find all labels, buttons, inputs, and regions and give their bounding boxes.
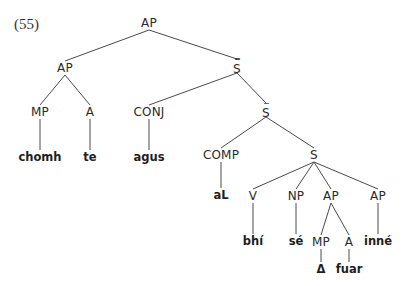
tree-edge [266, 117, 314, 148]
leaf-se: sé [289, 236, 304, 248]
tree-edge [65, 30, 149, 61]
node-s: S [310, 149, 318, 161]
node-v: V [249, 190, 257, 202]
node-comp: COMP [203, 149, 239, 161]
tree-edge [221, 117, 266, 148]
leaf-fuar: fuar [336, 264, 363, 276]
node-ap-left: AP [57, 62, 73, 74]
node-np: NP [288, 190, 305, 202]
node-mp-1: MP [31, 106, 49, 118]
leaf-delta: Δ [317, 264, 326, 276]
node-s-double-bar-label: S [233, 63, 241, 75]
tree-edge [314, 162, 378, 189]
tree-edge [149, 73, 237, 105]
leaf-te: te [83, 152, 96, 164]
node-mp-2: MP [312, 236, 330, 248]
node-conj: CONJ [133, 106, 164, 118]
tree-edge [331, 203, 349, 235]
node-ap-right: AP [370, 190, 386, 202]
node-s-bar: ─ S [262, 101, 270, 119]
leaf-aL: aL [213, 190, 228, 202]
tree-edge [65, 75, 90, 105]
tree-edge [237, 73, 266, 103]
leaf-bhi: bhí [243, 236, 263, 248]
leaf-agus: agus [133, 152, 164, 164]
node-s-bar-label: S [262, 107, 270, 119]
tree-edge [40, 75, 65, 105]
node-a-1: A [86, 106, 94, 118]
tree-edge [321, 203, 331, 235]
node-root-ap: AP [141, 17, 157, 29]
node-s-double-bar: ═ S [233, 57, 241, 75]
leaf-chomh: chomh [18, 152, 61, 164]
node-ap-mid: AP [323, 190, 339, 202]
leaf-inne: inné [364, 236, 392, 248]
example-number: (55) [14, 17, 39, 32]
tree-edge [149, 30, 237, 59]
node-a-2: A [345, 236, 353, 248]
